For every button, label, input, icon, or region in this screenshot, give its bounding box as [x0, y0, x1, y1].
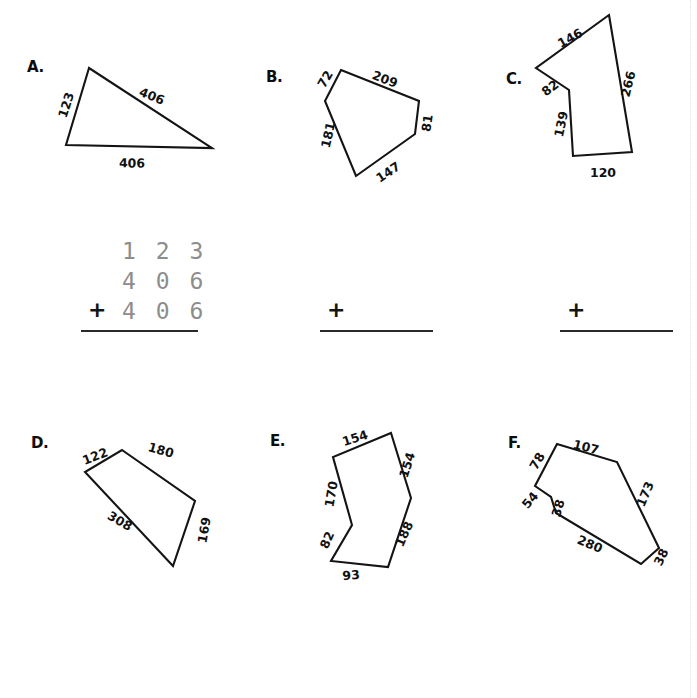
- work-b-plus-sign: +: [327, 299, 345, 321]
- side-label-c-3: 120: [590, 165, 616, 180]
- problem-letter-e: E.: [270, 432, 285, 450]
- problem-letter-b: B.: [266, 68, 282, 86]
- worksheet-page: A. B. C. D. E. F. 123 406 406 72 209 81 …: [0, 0, 697, 698]
- side-label-e-4: 93: [342, 567, 361, 583]
- shape-e-polygon: [331, 433, 411, 567]
- shape-d-quadrilateral: [85, 450, 195, 566]
- work-a-plus-sign: +: [88, 299, 106, 321]
- shape-a-triangle: [66, 68, 212, 148]
- work-a-addend-2: 4 0 6: [122, 268, 206, 294]
- problem-letter-c: C.: [506, 70, 522, 88]
- problem-letter-d: D.: [31, 434, 48, 452]
- work-a-addend-1: 1 2 3: [122, 238, 206, 264]
- work-a-addend-3: 4 0 6: [122, 298, 206, 324]
- work-c-sum-rule: [560, 330, 673, 332]
- work-a-sum-rule: [81, 330, 198, 332]
- problem-letter-f: F.: [508, 434, 521, 452]
- problem-letter-a: A.: [27, 58, 44, 76]
- side-label-a-3: 406: [119, 155, 145, 170]
- scan-edge-line: [690, 0, 691, 698]
- shape-b-pentagon: [325, 70, 419, 176]
- work-c-plus-sign: +: [567, 299, 585, 321]
- work-b-sum-rule: [320, 330, 433, 332]
- shape-outlines-layer: [0, 0, 697, 698]
- side-label-b-3: 81: [418, 113, 435, 132]
